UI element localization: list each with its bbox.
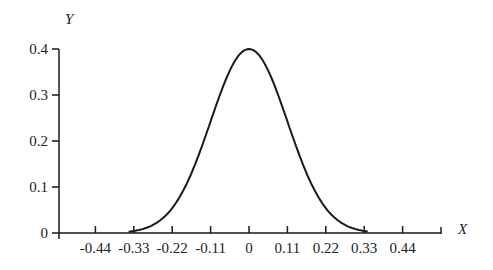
x-tick-label: -0.33 bbox=[118, 240, 149, 256]
x-tick-label: 0.11 bbox=[275, 240, 301, 256]
x-tick-label: 0.22 bbox=[313, 240, 339, 256]
x-tick-label: 0.33 bbox=[351, 240, 377, 256]
axes bbox=[59, 49, 441, 239]
x-tick-label: 0 bbox=[245, 240, 253, 256]
y-tick-label: 0 bbox=[41, 225, 49, 241]
chart: 00.10.20.30.4-0.44-0.33-0.22-0.1100.110.… bbox=[0, 0, 493, 270]
x-tick-label: -0.11 bbox=[195, 240, 226, 256]
x-tick-label: -0.22 bbox=[157, 240, 188, 256]
density-curve bbox=[129, 49, 368, 232]
y-tick-label: 0.2 bbox=[29, 133, 48, 149]
y-axis-label: Y bbox=[65, 11, 75, 27]
x-tick-label: -0.44 bbox=[80, 240, 112, 256]
x-tick-label: 0.44 bbox=[389, 240, 416, 256]
y-tick-label: 0.1 bbox=[29, 179, 48, 195]
y-tick-label: 0.4 bbox=[29, 41, 48, 57]
x-axis-label: X bbox=[457, 221, 468, 237]
ticks: 00.10.20.30.4-0.44-0.33-0.22-0.1100.110.… bbox=[29, 41, 416, 256]
y-tick-label: 0.3 bbox=[29, 87, 48, 103]
